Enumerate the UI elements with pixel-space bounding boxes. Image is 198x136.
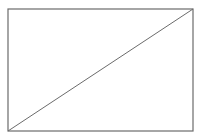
diagram-canvas [0,0,198,136]
diagonal-line [8,9,193,131]
